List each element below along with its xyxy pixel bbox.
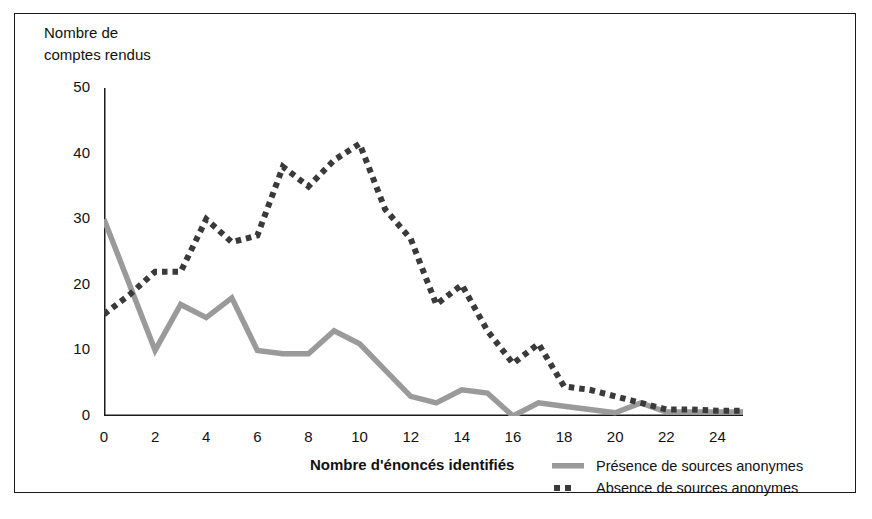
legend-item-absence: Absence de sources anonymes: [551, 477, 803, 499]
x-tick-label: 2: [140, 428, 170, 445]
legend-label-presence: Présence de sources anonymes: [596, 458, 803, 474]
plot-area: [104, 88, 743, 416]
x-tick-label: 4: [191, 428, 221, 445]
x-tick-label: 24: [702, 428, 732, 445]
x-tick-label: 10: [345, 428, 375, 445]
x-tick-label: 18: [549, 428, 579, 445]
x-tick-label: 14: [447, 428, 477, 445]
y-axis-caption: Nombre de comptes rendus: [44, 22, 151, 66]
x-tick-label: 20: [600, 428, 630, 445]
y-axis-caption-line-1: Nombre de: [44, 22, 151, 44]
y-tick-label: 0: [56, 406, 90, 423]
y-tick-label: 30: [56, 209, 90, 226]
y-tick-label: 10: [56, 340, 90, 357]
legend-swatch-dotted-icon: [551, 479, 585, 497]
y-tick-label: 20: [56, 275, 90, 292]
legend-item-presence: Présence de sources anonymes: [551, 455, 803, 477]
legend-swatch-solid-icon: [551, 457, 585, 475]
y-tick-label: 50: [56, 78, 90, 95]
x-axis-title: Nombre d'énoncés identifiés: [310, 456, 514, 473]
x-tick-label: 12: [396, 428, 426, 445]
x-tick-label: 16: [498, 428, 528, 445]
figure-root: Nombre de comptes rendus Nombre d'énoncé…: [0, 0, 872, 519]
legend-label-absence: Absence de sources anonymes: [596, 480, 798, 496]
x-tick-label: 6: [242, 428, 272, 445]
x-tick-label: 22: [651, 428, 681, 445]
y-axis-caption-line-2: comptes rendus: [44, 44, 151, 66]
y-tick-label: 40: [56, 144, 90, 161]
x-tick-label: 8: [293, 428, 323, 445]
line-chart: [104, 88, 743, 416]
chart-legend: Présence de sources anonymes Absence de …: [551, 455, 803, 499]
x-tick-label: 0: [89, 428, 119, 445]
